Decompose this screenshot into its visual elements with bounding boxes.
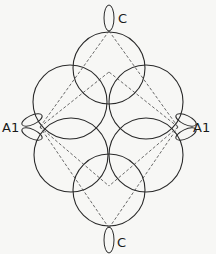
geometric-construction-diagram: C C A1 A1 [0,0,216,254]
label-bottom-c: C [117,235,126,250]
label-right-a1: A1 [193,120,210,135]
top-petal-icon [104,5,114,31]
label-top-c: C [118,11,127,26]
lower-left-circle [34,118,108,192]
dashed-construction-lines [40,31,178,228]
lower-right-circle [109,118,183,192]
label-left-a1: A1 [2,120,19,135]
bottom-petal-icon [104,227,114,253]
